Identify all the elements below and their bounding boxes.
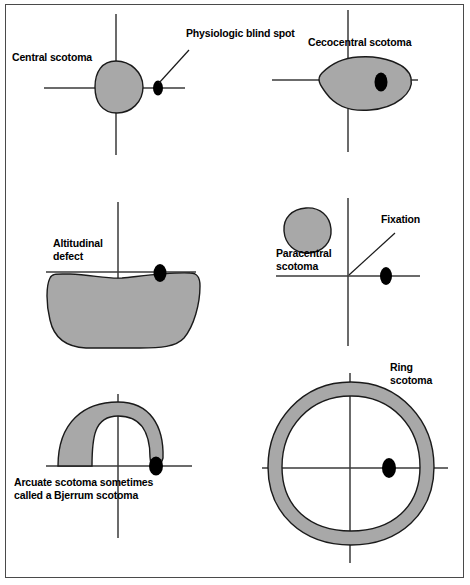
scotoma-shape-altitudinal [47,273,200,348]
label-altitudinal-defect: Altitudinaldefect [53,237,103,262]
label-line-2: defect [53,250,83,262]
label-line-1: Ring [390,361,413,373]
blind-spot-icon [382,458,396,478]
blind-spot-leader-line [159,50,189,83]
label-line-2: scotoma [276,260,318,272]
blind-spot-icon [149,457,163,476]
scotoma-shape-cecocentral [319,57,411,111]
label-line-1: Paracentral [276,247,332,259]
label-ring-scotoma: Ringscotoma [390,361,432,386]
panel-ring-scotoma: Ringscotoma [250,355,470,585]
blind-spot-icon [380,267,392,285]
panel-paracentral-scotoma: Paracentralscotoma Fixation [250,180,470,370]
panel-central-scotoma: Central scotoma Physiologic blind spot [0,0,250,180]
blind-spot-icon [375,73,388,92]
scotoma-shape-ring [268,382,434,545]
label-central-scotoma: Central scotoma [12,51,92,64]
label-line-1: Altitudinal [53,237,103,249]
panel-altitudinal-defect: Altitudinaldefect [0,180,250,370]
blind-spot-icon [153,81,163,96]
blind-spot-icon [154,264,167,282]
panel-arcuate-scotoma: Arcuate scotoma sometimescalled a Bjerru… [0,370,250,585]
figure-page: Central scotoma Physiologic blind spot C… [0,0,470,585]
scotoma-shape-arcuate [58,402,163,466]
label-line-2: scotoma [390,374,432,386]
label-line-1: Arcuate scotoma sometimes [14,476,153,488]
scotoma-shape-central [95,61,143,113]
label-arcuate-scotoma: Arcuate scotoma sometimescalled a Bjerru… [14,476,153,501]
label-cecocentral-scotoma: Cecocentral scotoma [308,36,411,49]
annotation-fixation: Fixation [381,213,420,226]
label-line-2: called a Bjerrum scotoma [14,489,138,501]
panel-cecocentral-scotoma: Cecocentral scotoma [250,0,470,180]
label-paracentral-scotoma: Paracentralscotoma [276,247,332,272]
